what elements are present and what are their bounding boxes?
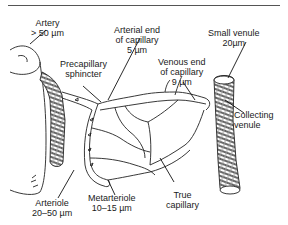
collecting-venule-line1: Collecting: [234, 110, 274, 120]
artery-size: > 50 µm: [31, 28, 64, 38]
artery-name: Artery: [31, 18, 64, 28]
collecting-venule-line2: venule: [234, 120, 274, 130]
label-precapillary-sphincter: Precapillary sphincter: [60, 59, 107, 79]
label-arteriole: Arteriole 20–50 µm: [32, 198, 72, 218]
precapillary-line2: sphincter: [60, 69, 107, 79]
label-arterial-end: Arterial end of capillary 5 µm: [114, 25, 160, 55]
label-metarteriole: Metarteriole 10–15 µm: [88, 193, 136, 213]
true-capillary-line1: True: [166, 190, 199, 200]
metarteriole-size: 10–15 µm: [88, 203, 136, 213]
precapillary-line1: Precapillary: [60, 59, 107, 69]
arterial-end-size: 5 µm: [114, 45, 160, 55]
capillary-network: [90, 76, 210, 180]
label-collecting-venule: Collecting venule: [234, 110, 274, 130]
small-venule-name: Small venule: [208, 28, 260, 38]
collecting-venule-shape: [214, 76, 240, 195]
arteriole-name: Arteriole: [32, 198, 72, 208]
arterial-end-line1: Arterial end: [114, 25, 160, 35]
arterial-end-line2: of capillary: [114, 35, 160, 45]
label-venous-end: Venous end of capillary 9 µm: [158, 57, 206, 87]
venous-end-line1: Venous end: [158, 57, 206, 67]
label-small-venule: Small venule 20µm: [208, 28, 260, 48]
artery-shape: [10, 46, 46, 195]
metarteriole-shape: [62, 92, 110, 187]
arteriole-size: 20–50 µm: [32, 208, 72, 218]
label-artery: Artery > 50 µm: [31, 18, 64, 38]
true-capillary-line2: capillary: [166, 200, 199, 210]
arteriole-shape: [40, 72, 65, 167]
label-true-capillary: True capillary: [166, 190, 199, 210]
venous-end-line2: of capillary: [158, 67, 206, 77]
venous-end-size: 9 µm: [158, 77, 206, 87]
metarteriole-name: Metarteriole: [88, 193, 136, 203]
small-venule-size: 20µm: [208, 38, 260, 48]
